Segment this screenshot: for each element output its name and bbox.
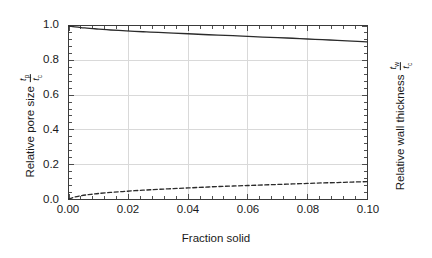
fraction-denominator: tc xyxy=(400,62,413,70)
y-axis-left-fraction: tp tc xyxy=(17,74,43,82)
y-axis-title-right: Relative wall thickness tw tc xyxy=(388,30,414,220)
y-axis-right-fraction: tw tc xyxy=(387,61,413,70)
y-tick-label: 1.0 xyxy=(43,19,59,31)
curve-solid xyxy=(69,26,367,42)
x-tick-label: 0.08 xyxy=(297,204,319,216)
x-axis-title: Fraction solid xyxy=(0,233,432,245)
y-tick-label: 0.8 xyxy=(43,54,59,66)
fraction-numerator: tw xyxy=(387,61,399,70)
fraction-numerator: tp xyxy=(17,74,29,82)
x-tick-label: 0.10 xyxy=(357,204,379,216)
data-curves xyxy=(69,26,367,199)
y-axis-title-left: Relative pore size tp tc xyxy=(18,30,44,220)
y-axis-title-right-text: Relative wall thickness xyxy=(394,75,406,191)
x-tick-label: 0.00 xyxy=(57,204,79,216)
plot-area xyxy=(68,25,368,200)
figure-canvas: 0.00.20.40.60.81.0 0.000.020.040.060.080… xyxy=(0,0,432,258)
y-tick-label: 0.2 xyxy=(43,159,59,171)
y-tick-label: 0.4 xyxy=(43,124,59,136)
x-tick-label: 0.06 xyxy=(237,204,259,216)
x-tick-label: 0.02 xyxy=(117,204,139,216)
y-tick-label: 0.6 xyxy=(43,89,59,101)
y-axis-title-left-text: Relative pore size xyxy=(24,86,36,177)
x-tick-label: 0.04 xyxy=(177,204,199,216)
fraction-denominator: tc xyxy=(30,74,43,82)
curve-dashed xyxy=(69,182,367,199)
x-axis-title-text: Fraction solid xyxy=(182,232,250,244)
